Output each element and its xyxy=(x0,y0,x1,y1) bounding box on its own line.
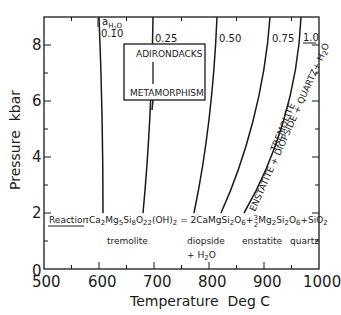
y-axis-title: Pressure kbar xyxy=(7,90,23,190)
label-diopside: diopside xyxy=(187,236,225,246)
x-axis-title: Temperature Deg C xyxy=(129,293,270,309)
y-tick-8: 8 xyxy=(32,36,42,54)
label-0-50: 0.50 xyxy=(219,33,241,44)
y-tick-6: 6 xyxy=(32,92,42,110)
box-label-metamorphism: METAMORPHISM xyxy=(130,88,204,98)
x-tick-800: 800 xyxy=(198,273,227,291)
label-0-25: 0.25 xyxy=(155,33,177,44)
x-tick-1000: 1000 xyxy=(303,273,341,291)
y-tick-4: 4 xyxy=(32,148,42,166)
x-tick-600: 600 xyxy=(88,273,117,291)
label-assemblage: ENSTATITE + DIOPSIDE + QUARTZ+ H2O xyxy=(248,41,333,213)
label-quartz: quartz xyxy=(290,236,319,246)
label-plus-h2o: + H2O xyxy=(187,250,216,262)
box-label-adirondacks: ADIRONDACKS xyxy=(136,49,203,59)
reaction-equation: :Ca2Mg5Si8O22(OH)2 = 2CaMgSi2O6+32Mg2Si2… xyxy=(86,214,328,229)
y-tick-2: 2 xyxy=(32,204,42,222)
x-tick-900: 900 xyxy=(253,273,282,291)
label-enstatite: enstatite xyxy=(242,236,283,246)
curve-0-25-below-box xyxy=(152,100,153,110)
x-tick-700: 700 xyxy=(143,273,172,291)
reaction-label: Reaction xyxy=(49,215,88,225)
y-tick-0: 0 xyxy=(32,262,42,280)
label-0-75: 0.75 xyxy=(272,33,294,44)
label-1-0: 1.0 xyxy=(303,32,319,43)
curve-0-10 xyxy=(99,17,103,213)
phase-diagram: 500 600 700 800 900 1000 0 2 4 6 8 Tempe… xyxy=(0,0,341,315)
label-tremolite: tremolite xyxy=(107,236,148,246)
